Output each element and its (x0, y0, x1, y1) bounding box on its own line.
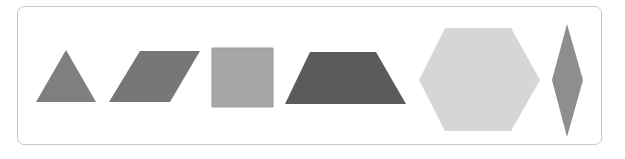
triangle-shape (36, 50, 96, 102)
shapes-canvas (0, 0, 625, 159)
square-shape (212, 48, 273, 107)
hexagon-shape (419, 28, 540, 131)
trapezoid-shape (285, 52, 406, 104)
parallelogram-shape (109, 51, 200, 102)
rhombus-shape (552, 24, 583, 137)
